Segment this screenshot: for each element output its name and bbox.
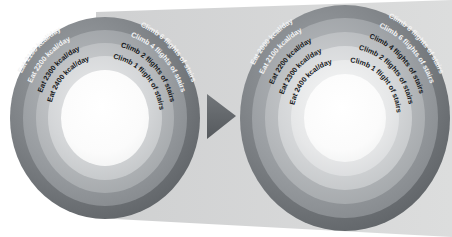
escalated-goal-target: Eat 2000 kcal/day Eat 2100 kcal/day Eat … [240,5,450,231]
diagram-canvas: Eat 2100 kcal/day Eat 2200 kcal/day Eat … [0,0,452,237]
right-core [304,74,386,162]
left-core [61,70,149,166]
initial-goal-target: Eat 2100 kcal/day Eat 2200 kcal/day Eat … [10,17,200,219]
goal-escalation-diagram: Eat 2100 kcal/day Eat 2200 kcal/day Eat … [0,0,452,237]
